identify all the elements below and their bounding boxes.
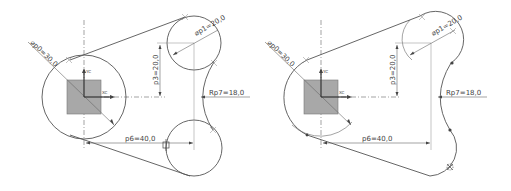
axis-y-label: YC xyxy=(322,69,328,74)
axis-y-label: YC xyxy=(85,69,91,74)
dim-p0-label[interactable]: ⌀p0=30,0 xyxy=(266,39,296,69)
drag-handle-icon[interactable] xyxy=(163,139,169,151)
dim-p6-label[interactable]: p6=40,0 xyxy=(362,135,392,143)
axis-x-label: XC xyxy=(102,90,107,95)
axis-x-label: XC xyxy=(339,90,344,95)
dim-p1-label[interactable]: ⌀p1=20,0 xyxy=(193,14,227,38)
dim-rp7-label[interactable]: Rp7=18,0 xyxy=(209,89,244,97)
dim-p0-label[interactable]: ⌀p0=30,0 xyxy=(29,39,59,69)
sketch-right: p3=20,0 p6=40,0 Rp7=18,0 ⌀p0=30,0 ⌀p1=20… xyxy=(265,11,487,176)
dim-rp7-label[interactable]: Rp7=18,0 xyxy=(446,89,481,97)
dim-p3-label[interactable]: p3=20,0 xyxy=(152,55,160,85)
cad-sketch-canvas: p3=20,0 p6=40,0 Rp7=18,0 ⌀p0=30,0 ⌀p1=20… xyxy=(0,0,511,191)
dim-p1-label[interactable]: ⌀p1=20,0 xyxy=(430,14,464,38)
dim-p3-label[interactable]: p3=20,0 xyxy=(389,55,397,85)
dim-p6-label[interactable]: p6=40,0 xyxy=(125,135,155,143)
construction-arc-p0 xyxy=(292,122,352,136)
tangent-constraint-icon[interactable] xyxy=(303,14,456,63)
construction-arc-p1 xyxy=(402,20,412,60)
drag-handle-icon[interactable] xyxy=(447,164,453,170)
sketch-left: p3=20,0 p6=40,0 Rp7=18,0 ⌀p0=30,0 ⌀p1=20… xyxy=(28,14,250,176)
